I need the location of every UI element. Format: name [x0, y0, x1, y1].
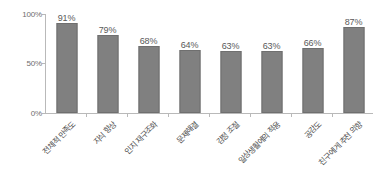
bar-value-label: 68%	[140, 36, 157, 46]
bar-rect[interactable]	[220, 51, 241, 113]
bar-value-label: 63%	[263, 41, 280, 51]
x-tick-mark-7	[332, 113, 333, 117]
bar-group: 68%	[128, 14, 169, 113]
bar-value-label: 66%	[304, 38, 321, 48]
bar-group: 87%	[333, 14, 374, 113]
x-tick-mark-1	[86, 113, 87, 117]
bar-rect[interactable]	[343, 27, 364, 113]
bar-value-label: 64%	[181, 40, 198, 50]
y-tick-label-100: 100%	[22, 10, 42, 19]
bar-value-label: 91%	[58, 13, 75, 23]
bar-value-label: 87%	[345, 17, 362, 27]
x-tick-mark-3	[168, 113, 169, 117]
bar-value-label: 63%	[222, 41, 239, 51]
y-tick-label-0: 0%	[31, 109, 42, 118]
y-tick-label-50: 50%	[27, 59, 42, 68]
x-tick-mark-5	[250, 113, 251, 117]
bar-group: 91%	[46, 14, 87, 113]
bar-rect[interactable]	[56, 23, 77, 113]
bar-chart: 100% 50% 0% 91% 79% 68% 64% 63%	[0, 0, 385, 193]
bar-rect[interactable]	[261, 51, 282, 113]
bar-rect[interactable]	[97, 35, 118, 113]
x-tick-mark-4	[209, 113, 210, 117]
bar-group: 66%	[292, 14, 333, 113]
bar-group: 79%	[87, 14, 128, 113]
x-tick-mark-6	[291, 113, 292, 117]
x-tick-mark-2	[127, 113, 128, 117]
bar-value-label: 79%	[99, 25, 116, 35]
bar-rect[interactable]	[138, 46, 159, 113]
bar-rect[interactable]	[302, 48, 323, 113]
bar-rect[interactable]	[179, 50, 200, 113]
bar-group: 63%	[210, 14, 251, 113]
bar-group: 64%	[169, 14, 210, 113]
bar-group: 63%	[251, 14, 292, 113]
plot-area: 91% 79% 68% 64% 63% 63% 66% 87%	[46, 14, 373, 113]
